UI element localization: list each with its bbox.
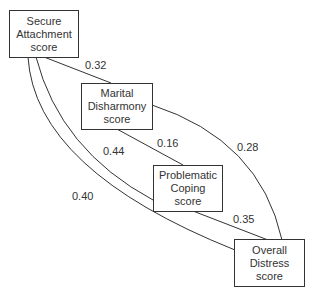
edge-label-coping-distress: 0.35	[233, 213, 254, 225]
edge-label-marital-coping: 0.16	[157, 137, 178, 149]
edge-label-secure-distress: 0.40	[72, 190, 93, 202]
node-line: Coping	[171, 182, 206, 195]
node-line: Problematic	[159, 169, 217, 182]
edge-label-marital-distress: 0.28	[237, 141, 258, 153]
node-line: score	[175, 195, 202, 208]
node-problematic-coping: Problematic Coping score	[153, 165, 223, 212]
node-line: Marital	[100, 87, 133, 100]
edge-label-secure-coping: 0.44	[103, 145, 124, 157]
node-line: Disharmony	[88, 100, 147, 113]
node-secure-attachment: Secure Attachment score	[9, 10, 79, 58]
node-overall-distress: Overall Distress score	[234, 239, 305, 287]
node-line: Secure	[27, 15, 62, 28]
node-line: score	[104, 113, 131, 126]
edge-coping-distress	[193, 211, 268, 240]
node-line: Attachment	[16, 28, 72, 41]
node-line: Distress	[250, 257, 290, 270]
node-marital-disharmony: Marital Disharmony score	[81, 83, 153, 130]
edge-label-secure-marital: 0.32	[85, 59, 106, 71]
node-line: score	[31, 41, 58, 54]
node-line: score	[256, 270, 283, 283]
node-line: Overall	[252, 244, 287, 257]
